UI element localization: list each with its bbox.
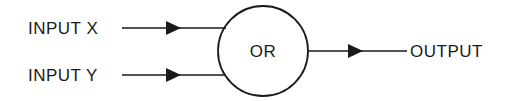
input-x: INPUT X xyxy=(28,19,226,38)
output: OUTPUT xyxy=(308,42,483,61)
output-arrow-icon xyxy=(348,44,363,58)
gate-label: OR xyxy=(250,42,277,61)
or-gate-diagram: INPUT X INPUT Y OR OUTPUT xyxy=(0,0,524,101)
or-gate: OR xyxy=(218,6,308,96)
input-y-arrow-icon xyxy=(166,68,181,82)
input-x-label: INPUT X xyxy=(28,19,98,38)
input-y-label: INPUT Y xyxy=(28,66,98,85)
output-label: OUTPUT xyxy=(410,42,483,61)
input-y: INPUT Y xyxy=(28,66,226,85)
input-x-arrow-icon xyxy=(166,21,181,35)
